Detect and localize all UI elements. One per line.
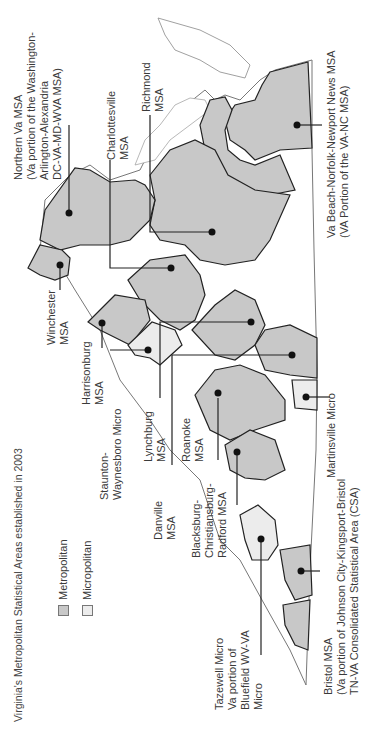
label-bristol: Bristol MSA (Va portion of Johnson City-… bbox=[322, 479, 361, 695]
label-northern-va: Northern Va MSA (Va portion of the Washi… bbox=[12, 32, 64, 180]
dot-richmond bbox=[209, 229, 216, 236]
dot-lynchburg bbox=[248, 319, 255, 326]
label-blacksburg: Blacksburg- Christiansburg- Radford MSA bbox=[190, 483, 229, 558]
dot-va-beach bbox=[294, 122, 301, 129]
dot-martinsville bbox=[303, 394, 310, 401]
label-staunton: Staunton- Waynesboro Micro bbox=[98, 409, 124, 500]
dot-charlottesville bbox=[168, 265, 175, 272]
dot-tazewell bbox=[258, 536, 265, 543]
label-martinsville: Martinsville Micro bbox=[325, 393, 338, 478]
dot-northern-va bbox=[66, 210, 73, 217]
dot-staunton bbox=[145, 347, 152, 354]
dot-winchester bbox=[57, 262, 64, 269]
legend-swatch-micropolitan bbox=[82, 605, 93, 616]
legend-label-micropolitan: Micropolitan bbox=[81, 541, 94, 600]
label-tazewell: Tazewell Micro Va portion of Bluefield W… bbox=[213, 630, 265, 710]
map-title: Virginia's Metropolitan Statistical Area… bbox=[12, 448, 25, 722]
label-winchester: Winchester MSA bbox=[45, 290, 71, 345]
legend-label-metropolitan: Metropolitan bbox=[57, 539, 70, 600]
dot-bristol bbox=[298, 568, 305, 575]
dot-danville bbox=[289, 352, 296, 359]
dot-blacksburg bbox=[234, 449, 241, 456]
eastern-shore bbox=[158, 18, 250, 78]
label-roanoke: Roanoke MSA bbox=[180, 418, 206, 462]
label-lynchburg: Lynchburg MSA bbox=[142, 411, 168, 462]
label-harrisonburg: Harrisonburg MSA bbox=[80, 341, 106, 405]
dot-harrisonburg bbox=[99, 320, 106, 327]
label-richmond: Richmond MSA bbox=[140, 62, 166, 112]
dot-roanoke bbox=[215, 390, 222, 397]
legend-swatch-metropolitan bbox=[58, 605, 69, 616]
label-charlottesville: Charlottesville MSA bbox=[105, 91, 131, 160]
label-danville: Danville MSA bbox=[152, 501, 178, 540]
label-va-beach: Va Beach-Norfolk-Newport News MSA (VA Po… bbox=[325, 51, 351, 238]
